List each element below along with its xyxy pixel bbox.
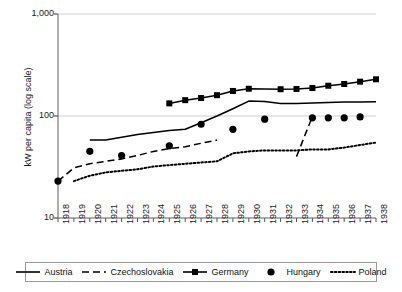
x-axis-tick-label: 1938 <box>380 204 389 224</box>
x-axis-tick-label: 1927 <box>205 204 214 224</box>
x-axis-tick-label: 1923 <box>142 204 151 224</box>
x-axis-tick-label: 1929 <box>237 204 246 224</box>
x-axis-tick-label: 1926 <box>189 204 198 224</box>
legend-label: Germany <box>211 268 248 277</box>
x-axis-tick-label: 1921 <box>110 204 119 224</box>
x-axis-tick-labels: 1918191919201921192219231924192519261927… <box>0 0 402 292</box>
x-axis-tick-label: 1932 <box>285 204 294 224</box>
legend-item-germany[interactable]: Germany <box>182 267 248 277</box>
x-axis-tick-label: 1920 <box>94 204 103 224</box>
legend-label: Hungary <box>287 268 321 277</box>
legend-swatch-icon <box>330 267 356 277</box>
x-axis-tick-label: 1936 <box>348 204 357 224</box>
x-axis-tick-label: 1933 <box>301 204 310 224</box>
x-axis-tick-label: 1922 <box>126 204 135 224</box>
legend-label: Poland <box>359 268 387 277</box>
x-axis-tick-label: 1928 <box>221 204 230 224</box>
x-axis-tick-label: 1925 <box>173 204 182 224</box>
legend-swatch-icon <box>15 267 41 277</box>
chart-figure: kW per capita (log scale) 1,00010010 191… <box>0 0 402 292</box>
legend-swatch-icon <box>182 267 208 277</box>
legend-label: Austria <box>44 268 72 277</box>
x-axis-tick-label: 1919 <box>78 204 87 224</box>
x-axis-tick-label: 1937 <box>364 204 373 224</box>
legend-swatch-icon <box>81 267 107 277</box>
legend-item-czechoslovakia[interactable]: Czechoslovakia <box>81 267 173 277</box>
legend-swatch-icon <box>258 267 284 277</box>
legend-marker <box>267 268 274 275</box>
chart-legend: AustriaCzechoslovakiaGermanyHungaryPolan… <box>25 262 377 282</box>
legend-item-poland[interactable]: Poland <box>330 267 387 277</box>
x-axis-tick-label: 1931 <box>269 204 278 224</box>
x-axis-tick-label: 1930 <box>253 204 262 224</box>
legend-marker <box>192 269 198 275</box>
legend-item-austria[interactable]: Austria <box>15 267 72 277</box>
x-axis-tick-label: 1918 <box>62 204 71 224</box>
x-axis-tick-label: 1935 <box>332 204 341 224</box>
legend-label: Czechoslovakia <box>110 268 173 277</box>
x-axis-tick-label: 1924 <box>157 204 166 224</box>
legend-item-hungary[interactable]: Hungary <box>258 267 321 277</box>
x-axis-tick-label: 1934 <box>316 204 325 224</box>
